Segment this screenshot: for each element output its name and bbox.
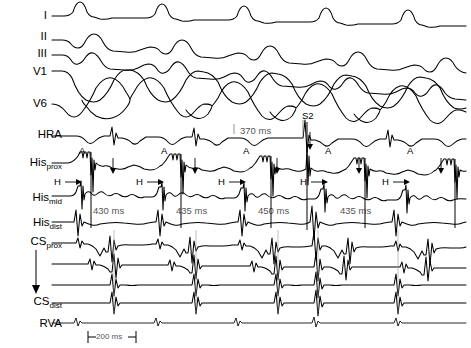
atrial-arrow-2 [192,158,198,174]
trace-lead-I [52,2,466,27]
trace-lead-III [52,53,466,100]
cs-direction-arrow [32,250,40,294]
his-arrow-4 [311,179,328,185]
his-arrow-1 [65,179,82,185]
scale-bar [88,331,136,343]
trace-RVA [52,317,466,327]
waveform-canvas [0,0,471,348]
trace-His-prox [52,150,466,199]
trace-His-mid [52,181,466,213]
his-arrow-5 [393,179,410,185]
trace-HRA [52,120,466,152]
atrial-arrow-1 [110,158,116,174]
ep-recording-figure: I II III V1 V6 HRA Hisprox Hismid Hisdis… [0,0,471,348]
trace-lead-II [52,34,466,73]
trace-lead-V1 [52,70,466,109]
